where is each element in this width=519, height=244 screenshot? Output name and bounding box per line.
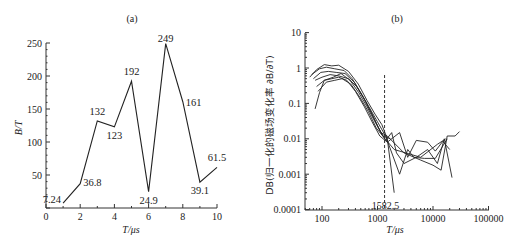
series-line-curve-5: [317, 77, 450, 157]
x-tick-label: 100: [315, 213, 330, 224]
y-tick-label: 50: [32, 170, 42, 181]
panel-b-vline: 1582.5: [372, 75, 400, 211]
series-line-curve-3: [313, 71, 452, 177]
data-point-label: 7.24: [43, 194, 62, 205]
y-tick-label: 1: [296, 63, 301, 74]
x-tick-label: 10000: [421, 213, 446, 224]
x-tick-label: 8: [180, 211, 185, 222]
data-point-label: 249: [158, 33, 174, 44]
figure: (a) 024681050100150200250 7.2436.8132123…: [0, 0, 519, 244]
y-tick-label: 0.0001: [274, 204, 302, 215]
panel-a-x-axis-label: T/μs: [122, 224, 139, 235]
data-point-label: 39.1: [191, 185, 209, 196]
y-tick-label: 200: [27, 71, 42, 82]
x-tick-label: 100000: [474, 213, 504, 224]
x-tick-label: 1000: [368, 213, 388, 224]
y-tick-label: 0.001: [279, 169, 302, 180]
series-line-curve-4: [315, 75, 459, 171]
panel-a-y-axis-label: B/T: [13, 119, 24, 135]
panel-b-chart: (b) 1001000100001000000.00010.0010.010.1…: [264, 13, 504, 235]
data-point-label: 123: [107, 130, 123, 141]
x-tick-label: 10: [212, 211, 222, 222]
series-line-curve-6: [318, 79, 446, 158]
panel-a-data-labels: 7.2436.813212319224.924916139.161.5: [43, 33, 226, 206]
panel-a-title: (a): [126, 13, 137, 25]
data-point-label: 192: [124, 66, 140, 77]
x-tick-label: 2: [78, 211, 83, 222]
data-point-label: 24.9: [139, 195, 157, 206]
data-point-label: 61.5: [208, 152, 226, 163]
y-tick-label: 150: [27, 104, 42, 115]
data-point-label: 132: [89, 106, 105, 117]
x-tick-label: 6: [146, 211, 151, 222]
y-tick-label: 250: [27, 38, 42, 49]
panel-b-axes: 1001000100001000000.00010.0010.010.1110: [274, 27, 504, 224]
y-tick-label: 10: [291, 27, 301, 38]
y-tick-label: 0.01: [284, 133, 302, 144]
panel-b-lines: [310, 65, 460, 193]
x-tick-label: 4: [112, 211, 117, 222]
threshold-label: 1582.5: [372, 200, 400, 211]
x-tick-label: 0: [44, 211, 49, 222]
panel-b-y-axis-label: DB(归一化的磁场变化率 ∂B/∂T): [264, 55, 275, 195]
panel-a-chart: (a) 024681050100150200250 7.2436.8132123…: [13, 13, 226, 235]
y-tick-label: 100: [27, 137, 42, 148]
data-point-label: 161: [186, 97, 202, 108]
panel-b-x-axis-label: T/μs: [386, 224, 403, 235]
panel-b-title: (b): [391, 13, 403, 25]
y-tick-label: 0.1: [289, 98, 302, 109]
data-point-label: 36.8: [83, 177, 101, 188]
